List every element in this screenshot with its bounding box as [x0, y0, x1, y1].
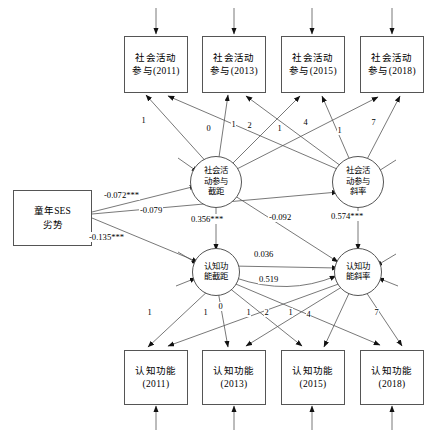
path-label-ses-to-social-intercept: -0.072*** [103, 190, 140, 200]
observed-box-cognition-2011[interactable]: 认知功能 (2011) [124, 350, 188, 405]
box-line-2: (2018) [378, 378, 405, 391]
box-line-2: 参与(2011) [132, 65, 179, 78]
loading-social-slope-2013: 2 [247, 121, 252, 130]
latent-line-2: 能斜率 [346, 272, 370, 282]
path-label-ses-to-cog-intercept: -0.135*** [88, 232, 125, 242]
loading-social-slope-2015: 4 [303, 118, 308, 127]
box-line-1: 认知功能 [371, 365, 412, 378]
latent-cognitive-function-slope[interactable]: 认知功 能斜率 [334, 248, 382, 296]
box-line-2: (2013) [220, 378, 247, 391]
loading-social-intercept-2011: 1 [141, 116, 146, 125]
loading-cog-intercept-2011: 1 [147, 308, 152, 317]
loading-cog-slope-2013: 2 [264, 308, 269, 317]
loading-cog-intercept-2018: 1 [288, 308, 293, 317]
observed-box-cognition-2015[interactable]: 认知功能 (2015) [281, 350, 345, 405]
latent-line-2: 动参与 [204, 177, 228, 187]
loading-cog-slope-2011: 0 [218, 302, 223, 311]
sem-diagram-canvas: 社会活动 参与(2011) 社会活动 参与(2013) 社会活动 参与(2015… [0, 0, 432, 435]
box-line-2: (2015) [299, 378, 326, 391]
box-line-2: 参与(2015) [289, 65, 337, 78]
latent-line-3: 斜率 [350, 187, 366, 197]
box-line-2: 参与(2013) [210, 65, 258, 78]
path-label-social-slope-to-cog-slope: 0.574*** [330, 211, 364, 221]
path-label-social-intercept-to-cog-intercept: 0.356*** [190, 214, 224, 224]
box-line-1: 认知功能 [292, 365, 333, 378]
latent-social-participation-slope[interactable]: 社会活 动参与 斜率 [332, 156, 384, 208]
loading-cog-intercept-2015: 1 [246, 308, 251, 317]
latent-line-1: 认知功 [204, 262, 228, 272]
path-label-social-intercept-to-cog-slope: -0.092 [268, 212, 292, 222]
latent-line-2: 动参与 [346, 177, 370, 187]
observed-box-social-2015[interactable]: 社会活动 参与(2015) [281, 36, 345, 93]
box-line-1: 社会活动 [292, 52, 333, 65]
loading-social-slope-2011: 0 [206, 124, 211, 133]
latent-line-1: 认知功 [346, 262, 370, 272]
observed-box-social-2018[interactable]: 社会活动 参与(2018) [360, 36, 424, 93]
loading-social-intercept-2013: 1 [231, 120, 236, 129]
box-line-1: 认知功能 [213, 365, 254, 378]
loading-cog-intercept-2013: 1 [203, 308, 208, 317]
path-label-ses-to-social-slope: -0.079 [139, 205, 163, 215]
box-line-2: (2011) [143, 378, 170, 391]
latent-line-1: 社会活 [346, 166, 370, 176]
loading-social-intercept-2018: 1 [337, 126, 342, 135]
predictor-line-2: 劣势 [43, 218, 63, 232]
latent-line-1: 社会活 [204, 166, 228, 176]
box-line-1: 认知功能 [135, 365, 176, 378]
observed-box-social-2013[interactable]: 社会活动 参与(2013) [202, 36, 266, 93]
observed-box-cognition-2013[interactable]: 认知功能 (2013) [202, 350, 266, 405]
observed-box-social-2011[interactable]: 社会活动 参与(2011) [124, 36, 188, 93]
loading-cog-slope-2015: 4 [306, 310, 311, 319]
box-line-1: 社会活动 [213, 52, 254, 65]
loading-social-slope-2018: 7 [371, 118, 376, 127]
box-line-2: 参与(2018) [368, 65, 416, 78]
path-label-cog-intercept-to-cog-slope-a: 0.036 [253, 249, 274, 259]
observed-box-cognition-2018[interactable]: 认知功能 (2018) [360, 350, 424, 405]
latent-line-2: 能截距 [204, 272, 228, 282]
loading-social-intercept-2015: 1 [277, 124, 282, 133]
latent-line-3: 截距 [208, 187, 224, 197]
path-label-cog-intercept-to-cog-slope-b: 0.519 [258, 274, 279, 284]
loading-cog-slope-2018: 7 [374, 308, 379, 317]
latent-social-participation-intercept[interactable]: 社会活 动参与 截距 [190, 156, 242, 208]
latent-cognitive-function-intercept[interactable]: 认知功 能截距 [192, 248, 240, 296]
box-line-1: 社会活动 [135, 52, 176, 65]
predictor-line-1: 童年SES [34, 204, 70, 218]
box-line-1: 社会活动 [371, 52, 412, 65]
predictor-box-childhood-ses[interactable]: 童年SES 劣势 [13, 190, 92, 246]
